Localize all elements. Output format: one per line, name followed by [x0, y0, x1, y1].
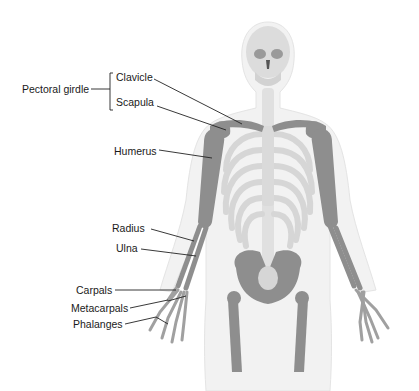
- label-humerus: Humerus: [114, 145, 157, 157]
- label-radius: Radius: [112, 222, 145, 234]
- sternum: [262, 126, 274, 206]
- label-clavicle: Clavicle: [116, 71, 153, 83]
- label-ulna: Ulna: [116, 242, 138, 254]
- label-pectoral-girdle: Pectoral girdle: [22, 83, 89, 95]
- label-phalanges: Phalanges: [73, 318, 123, 330]
- label-carpals: Carpals: [76, 284, 112, 296]
- label-scapula: Scapula: [116, 96, 154, 108]
- skeleton-figure: [0, 0, 419, 391]
- label-metacarpals: Metacarpals: [71, 302, 128, 314]
